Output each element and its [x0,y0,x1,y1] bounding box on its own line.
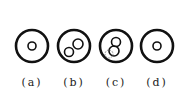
outer-circle [141,30,173,62]
label-b: (b) [63,76,85,89]
inner-circle [28,42,36,50]
label-a: (a) [21,76,42,89]
outer-circle [16,30,48,62]
inner-circle [112,38,121,47]
label-c: (c) [106,76,127,89]
inner-circle [109,46,119,56]
inner-circle [153,42,161,50]
inner-circle [73,39,83,49]
panel-d [141,30,173,62]
inner-circle [65,48,74,57]
label-d: (d) [146,76,168,89]
panel-b [58,30,90,62]
panel-a [16,30,48,62]
panel-c [100,30,132,62]
